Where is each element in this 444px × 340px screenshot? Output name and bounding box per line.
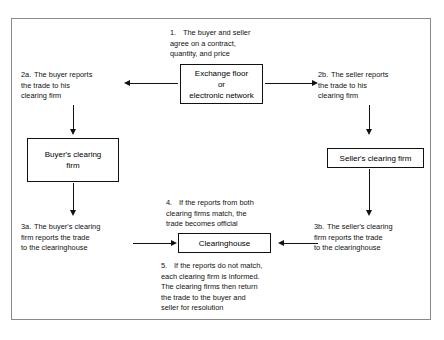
note-3b: 3b. The seller's clearing firm reports t… [314,222,432,254]
cropped-caption-fragment [14,0,254,5]
arrow-exchange-to-seller-line [265,83,312,84]
arrow-buyer-firm-to-clearinghouse-line [133,243,171,244]
arrow-buyer-firm-to-note3a-line [73,183,74,212]
seller-clearing-firm-label: Seller's clearing firm [340,153,412,164]
arrow-buyer-note-to-firm-line [73,105,74,131]
exchange-floor-label: Exchange floor or electronic network [189,68,253,101]
note-1: 1. The buyer and seller agree on a contr… [170,28,300,60]
note-4: 4. If the reports from both clearing fir… [166,198,306,230]
arrow-seller-firm-to-note3b-line [369,169,370,212]
note-5-marker: 5. [161,261,174,272]
note-3a: 3a. The buyer's clearing firm reports th… [21,222,141,254]
note-4-text: If the reports from both clearing firms … [166,198,254,228]
exchange-floor-box: Exchange floor or electronic network [180,64,263,104]
arrow-buyer-note-to-firm-head [70,129,76,135]
arrow-buyer-firm-to-note3a-head [70,210,76,216]
arrow-seller-firm-to-note3b-head [366,210,372,216]
note-3a-marker: 3a. [21,222,34,233]
arrow-seller-note-to-firm-line [369,105,370,131]
arrow-seller-firm-to-clearinghouse-line [284,243,318,244]
note-2a-marker: 2a. [21,70,34,81]
note-5: 5. If the reports do not match, each cle… [161,261,321,314]
trade-clearing-flow-diagram: 1. The buyer and seller agree on a contr… [0,0,444,340]
arrow-exchange-to-buyer-line [128,83,178,84]
buyer-clearing-firm-label: Buyer's clearing firm [45,149,102,171]
note-4-marker: 4. [166,198,179,209]
note-2b-marker: 2b. [318,70,331,81]
note-3b-marker: 3b. [314,222,327,233]
note-2a: 2a. The buyer reports the trade to his c… [21,70,126,102]
seller-clearing-firm-box: Seller's clearing firm [327,148,424,168]
buyer-clearing-firm-box: Buyer's clearing firm [27,138,119,182]
note-1-marker: 1. [170,28,183,39]
note-2b: 2b. The seller reports the trade to his … [318,70,426,102]
arrow-buyer-firm-to-clearinghouse-head [171,240,177,246]
note-5-text: If the reports do not match, each cleari… [161,261,262,312]
arrow-seller-note-to-firm-head [366,129,372,135]
clearinghouse-label: Clearinghouse [199,238,251,249]
arrow-seller-firm-to-clearinghouse-head [278,240,284,246]
clearinghouse-box: Clearinghouse [178,233,271,253]
